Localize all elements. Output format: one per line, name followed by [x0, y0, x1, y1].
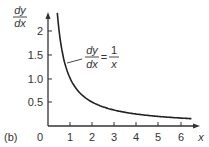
annotation-leader-line	[67, 59, 82, 63]
x-axis-label: x	[197, 131, 204, 143]
svg-text:dy: dy	[86, 44, 99, 56]
svg-text:6: 6	[178, 131, 184, 143]
origin-label: 0	[37, 131, 43, 143]
x-tick-labels: 1 2 3 4 5 6	[67, 131, 184, 143]
curve-annotation: dy dx = 1 x	[67, 44, 119, 70]
svg-text:dx: dx	[14, 17, 26, 29]
panel-label: (b)	[4, 131, 17, 143]
x-axis-arrow-icon	[193, 124, 200, 129]
svg-text:1: 1	[111, 44, 117, 56]
y-axis-arrow-icon	[46, 12, 51, 19]
svg-text:1: 1	[67, 131, 73, 143]
svg-text:x: x	[110, 58, 117, 70]
svg-text:0.5: 0.5	[28, 96, 43, 108]
svg-text:2: 2	[89, 131, 95, 143]
y-axis-label: dy dx	[13, 4, 27, 29]
svg-text:5: 5	[155, 131, 161, 143]
svg-text:dy: dy	[14, 4, 27, 16]
svg-text:=: =	[101, 51, 107, 63]
series-curve	[57, 13, 191, 119]
svg-text:2: 2	[37, 25, 43, 37]
y-tick-labels: 2 1.5 1.0 0.5	[28, 25, 43, 108]
svg-text:dx: dx	[86, 58, 98, 70]
svg-text:4: 4	[133, 131, 139, 143]
svg-text:1.5: 1.5	[28, 49, 43, 61]
svg-text:1.0: 1.0	[28, 73, 43, 85]
derivative-chart: 2 1.5 1.0 0.5 1 2 3 4 5 6 0 x (b) dy dx …	[0, 0, 209, 147]
svg-text:3: 3	[111, 131, 117, 143]
